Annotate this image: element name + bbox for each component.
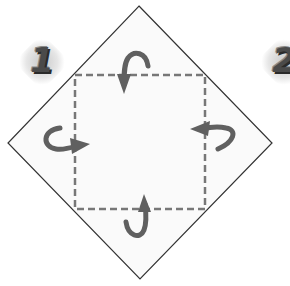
step-1-badge: 1 xyxy=(14,34,70,90)
step-number: 2 xyxy=(256,40,290,80)
step-number: 1 xyxy=(14,40,70,80)
step-2-badge: 2 xyxy=(256,34,290,90)
origami-diagram: 1 2 xyxy=(0,0,290,286)
